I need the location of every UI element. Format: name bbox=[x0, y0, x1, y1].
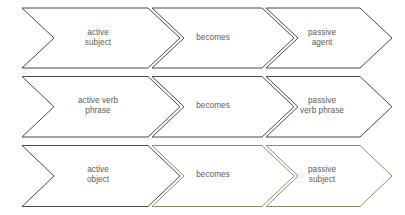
chevron-flow-diagram: active subjectbecomespassive agentactive… bbox=[0, 0, 405, 215]
chevron-source-r3c1 bbox=[22, 146, 180, 207]
chevron-source-r1c1 bbox=[22, 8, 180, 68]
chevron-source-r2c1 bbox=[22, 77, 180, 138]
diagram-canvas bbox=[0, 0, 405, 215]
